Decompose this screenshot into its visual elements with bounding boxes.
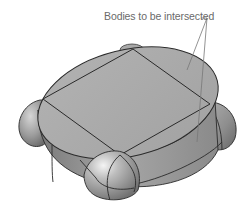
callout-label: Bodies to be intersected bbox=[104, 10, 214, 22]
intersecting-bodies-illustration bbox=[0, 0, 251, 211]
cad-figure: Bodies to be intersected bbox=[0, 0, 251, 211]
